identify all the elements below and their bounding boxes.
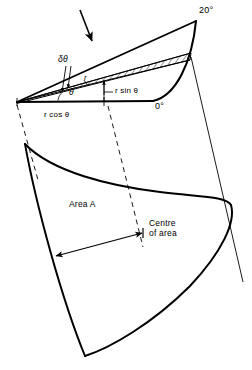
label-delta-theta: δθ (58, 55, 68, 65)
dashed-projection-centre (108, 106, 143, 247)
thin-projection-right (191, 57, 243, 282)
label-angle-0deg: 0° (155, 101, 164, 111)
diagram-canvas (0, 0, 252, 370)
sector-baseline-0deg (17, 101, 153, 102)
label-r: r (84, 73, 87, 82)
area-left-edge (25, 144, 85, 356)
technical-diagram-figure: 20° 0° δθ θ r r sin θ r cos θ Area A Cen… (0, 0, 252, 370)
flow-direction-arrow (80, 10, 92, 41)
dashed-projection-left (17, 105, 38, 180)
area-width-dimension-arrow (56, 233, 142, 256)
label-area-a: Area A (69, 200, 96, 210)
label-centre-of-area-line2: of area (149, 228, 177, 239)
theta-angle-arc (58, 93, 62, 101)
area-upper-curve (25, 144, 231, 205)
label-r-cos-theta: r cos θ (44, 110, 69, 119)
label-angle-20deg: 20° (199, 5, 213, 15)
upper-sector-group (17, 10, 196, 106)
label-r-sin-theta: r sin θ (115, 86, 138, 95)
lower-area-shape-group (25, 144, 232, 356)
label-theta: θ (69, 88, 74, 98)
